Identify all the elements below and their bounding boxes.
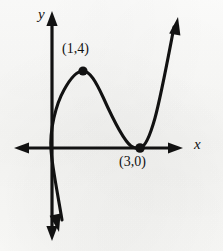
x-intercept-point-marker [135,143,145,153]
y-axis-bottom-arrowhead [46,226,57,241]
coordinate-plane-svg [0,0,223,251]
local-maximum-point-marker [78,66,87,75]
x-axis-left-arrowhead [14,142,29,153]
x-axis-right-arrowhead [168,142,183,153]
curve-upper-right-arrowhead [169,17,180,36]
x-axis [14,142,183,153]
x-axis-label: x [194,137,201,152]
graph-figure: y x (1,4) (3,0) [0,0,223,251]
y-axis-top-arrowhead [46,11,57,26]
y-axis-label: y [38,7,45,22]
local-maximum-label: (1,4) [62,42,89,56]
x-intercept-label: (3,0) [119,155,146,169]
